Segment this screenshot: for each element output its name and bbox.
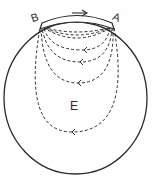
field-lines (35, 28, 118, 132)
field-line-arrow-icons (72, 47, 87, 135)
pole-label-a: A (111, 10, 123, 24)
pole-label-b: B (29, 10, 40, 24)
magnet-sphere-diagram: B A E (0, 0, 152, 182)
sphere-label-e: E (70, 99, 78, 113)
diagram-stage: B A E (0, 0, 152, 182)
sphere-outline (4, 22, 147, 174)
